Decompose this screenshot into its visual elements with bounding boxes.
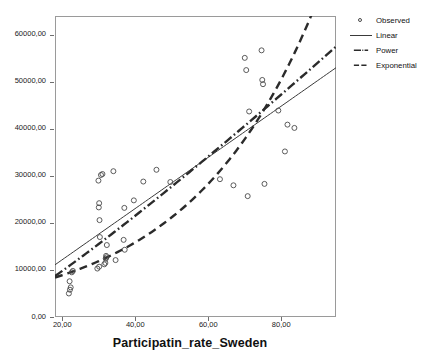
dash-dot-line-glyph [350, 49, 372, 52]
x-tick-label: 60,00 [199, 320, 218, 329]
dash-dot-line-icon [350, 44, 372, 56]
x-tick-label: 40,00 [126, 320, 145, 329]
x-tick-mark [62, 317, 63, 321]
x-tick-label: 80,00 [272, 320, 291, 329]
x-tick-label: 20,00 [53, 320, 72, 329]
legend-item-observed[interactable]: Observed [350, 13, 429, 27]
legend-item-exponential[interactable]: Exponential [350, 58, 429, 72]
solid-line-icon [350, 29, 372, 41]
legend-item-label: Observed [376, 16, 410, 25]
legend-item-label: Power [376, 46, 398, 55]
x-axis-title: Participatin_rate_Sweden [0, 336, 380, 350]
legend-item-linear[interactable]: Linear [350, 28, 429, 42]
dashed-line-icon [350, 59, 372, 71]
legend-item-label: Exponential [376, 61, 417, 70]
circle-glyph [358, 18, 362, 22]
legend-item-power[interactable]: Power [350, 43, 429, 57]
curve-fit-scatter-figure: 0,0010000,0020000,0030000,0040000,005000… [0, 0, 429, 363]
x-tick-mark [135, 317, 136, 321]
legend-item-label: Linear [376, 31, 398, 40]
circle-marker-icon [350, 14, 372, 26]
solid-line-glyph [350, 35, 372, 36]
x-tick-mark [281, 317, 282, 321]
dashed-line-glyph [350, 64, 372, 67]
chart-legend: ObservedLinearPowerExponential [350, 13, 429, 73]
x-tick-mark [208, 317, 209, 321]
